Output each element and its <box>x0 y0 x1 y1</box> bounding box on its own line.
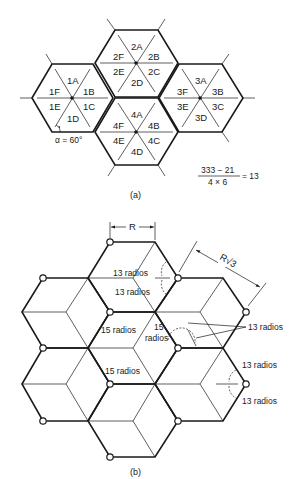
sector-3D: 3D <box>195 112 207 123</box>
site-marker <box>40 345 46 351</box>
label-middle-center-2: radios <box>145 333 168 343</box>
site-marker <box>107 309 113 315</box>
sector-2C: 2C <box>148 66 160 77</box>
site-marker <box>107 454 113 460</box>
sector-1E: 1E <box>49 101 61 112</box>
site-marker <box>243 381 249 387</box>
site-marker <box>40 418 46 424</box>
sector-4A: 4A <box>131 109 143 120</box>
sector-3F: 3F <box>177 86 188 97</box>
label-middle-left-upper: 15 radios <box>101 325 136 335</box>
dimension-R-label: R <box>129 221 136 232</box>
equation-numerator: 333 − 21 <box>201 165 235 175</box>
sector-2D: 2D <box>131 77 143 88</box>
sector-2E: 2E <box>113 66 125 77</box>
sector-1A: 1A <box>67 75 79 86</box>
hex-cell-3 <box>159 54 255 142</box>
antenna-arcs <box>155 262 246 398</box>
sector-3A: 3A <box>195 75 207 86</box>
sector-1B: 1B <box>83 86 95 97</box>
equation-denominator: 4 × 6 <box>208 177 227 187</box>
equation-result: = 13 <box>242 171 259 181</box>
site-marker <box>243 309 249 315</box>
label-right-upper: 13 radios <box>242 360 277 370</box>
sector-4D: 4D <box>131 146 143 157</box>
sector-1F: 1F <box>49 86 60 97</box>
label-top-upper: 13 radios <box>113 268 148 278</box>
site-marker <box>175 345 181 351</box>
label-right-lower: 13 radios <box>242 396 277 406</box>
site-marker <box>175 418 181 424</box>
angle-label: α = 60° <box>55 135 82 145</box>
sector-4B: 4B <box>148 120 160 131</box>
reuse-equation: 333 − 21 4 × 6 = 13 <box>198 165 259 187</box>
sector-4C: 4C <box>148 135 160 146</box>
label-right-callout: 13 radios <box>248 322 283 332</box>
dimension-R-sqrt3: R√3 <box>179 241 266 306</box>
site-marker <box>107 239 113 245</box>
sector-2F: 2F <box>113 51 124 62</box>
sector-1C: 1C <box>83 101 95 112</box>
caption-b: (b) <box>130 467 141 477</box>
sector-1D: 1D <box>67 113 79 124</box>
label-middle-center-1: 15 <box>154 322 164 332</box>
angle-marker: α = 60° <box>55 125 82 145</box>
figure-a: 1A 1B 1C 1D 1E 1F 2A 2B 2C 2D 2E 2F 3A 3… <box>20 19 259 200</box>
cell-layout-diagram: 1A 1B 1C 1D 1E 1F 2A 2B 2C 2D 2E 2F 3A 3… <box>0 0 305 479</box>
sector-3E: 3E <box>177 101 189 112</box>
sector-2A: 2A <box>131 41 143 52</box>
sector-2B: 2B <box>148 51 160 62</box>
sector-3B: 3B <box>212 86 224 97</box>
sector-3C: 3C <box>212 101 224 112</box>
radio-labels: 13 radios 13 radios 15 radios 15 radios … <box>101 268 283 406</box>
dimension-R: R <box>110 221 155 240</box>
sector-4E: 4E <box>113 135 125 146</box>
site-marker <box>107 381 113 387</box>
site-marker <box>40 275 46 281</box>
site-marker <box>175 275 181 281</box>
sector-4F: 4F <box>113 120 124 131</box>
label-top-lower: 13 radios <box>115 287 150 297</box>
caption-a: (a) <box>130 190 141 200</box>
label-middle-left-lower: 15 radios <box>105 366 140 376</box>
figure-b: R R√3 <box>22 221 283 477</box>
